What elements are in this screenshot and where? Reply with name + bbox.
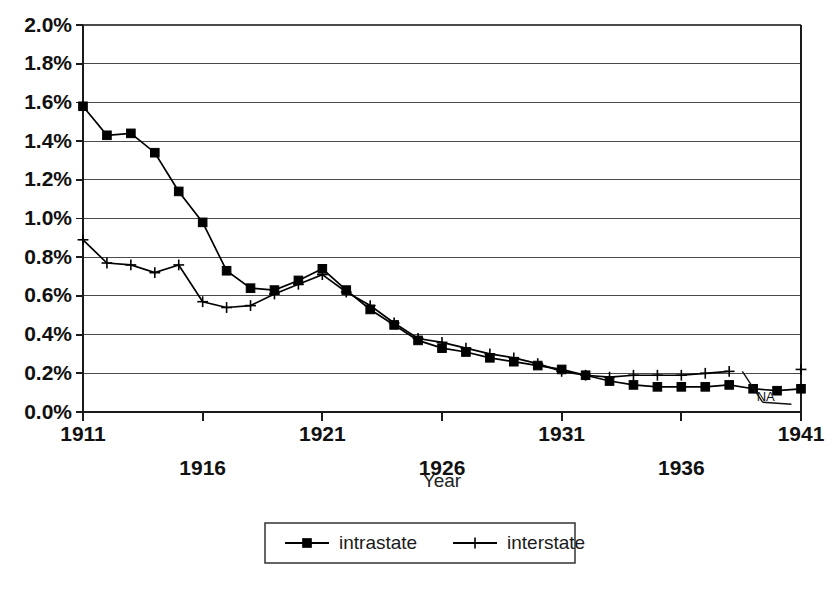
y-axis-tick-label: 1.4%	[24, 129, 72, 152]
data-point-marker-square	[246, 284, 255, 293]
y-axis-tick-label: 0.2%	[24, 361, 72, 384]
data-series-interstate	[78, 234, 807, 382]
data-point-marker-square	[127, 129, 136, 138]
na-annotation-label: NA	[757, 389, 775, 404]
data-point-marker-cross	[652, 370, 663, 381]
y-axis-tick-label: 0.0%	[24, 400, 72, 423]
data-point-marker-square	[701, 383, 710, 392]
data-point-marker-cross	[149, 267, 160, 278]
data-point-marker-cross	[125, 260, 136, 271]
data-point-marker-square	[222, 266, 231, 275]
data-point-marker-square	[174, 187, 183, 196]
chart-container: 0.0%0.2%0.4%0.6%0.8%1.0%1.2%1.4%1.6%1.8%…	[0, 0, 838, 597]
x-axis-tick-label: 1916	[179, 456, 226, 479]
x-axis-tick-label: 1921	[299, 422, 346, 445]
y-axis-tick-label: 2.0%	[24, 13, 72, 36]
data-point-marker-cross	[700, 368, 711, 379]
data-series-intrastate	[79, 102, 806, 395]
data-point-marker-cross	[676, 370, 687, 381]
data-series-layer	[78, 102, 807, 395]
data-point-marker-cross	[628, 370, 639, 381]
data-point-marker-cross	[724, 366, 735, 377]
data-point-marker-square	[629, 381, 638, 390]
series-polyline	[83, 240, 729, 377]
y-axis-tick-labels: 0.0%0.2%0.4%0.6%0.8%1.0%1.2%1.4%1.6%1.8%…	[24, 13, 72, 423]
legend-label: intrastate	[339, 532, 417, 553]
data-point-marker-square	[151, 148, 160, 157]
x-axis-tick-label: 1941	[778, 422, 825, 445]
y-axis-tick-label: 0.6%	[24, 283, 72, 306]
y-axis-tick-label: 1.8%	[24, 51, 72, 74]
y-axis-tick-label: 1.2%	[24, 167, 72, 190]
data-point-marker-cross	[173, 260, 184, 271]
y-axis-tick-label: 0.8%	[24, 245, 72, 268]
data-point-marker-square	[103, 131, 112, 140]
x-axis-tick-label: 1931	[538, 422, 585, 445]
y-axis-tick-label: 1.0%	[24, 206, 72, 229]
chart-legend: intrastateinterstate	[265, 523, 585, 563]
data-point-marker-square	[677, 383, 686, 392]
data-point-marker-cross	[245, 300, 256, 311]
x-axis-tick-label: 1936	[658, 456, 705, 479]
data-point-marker-square	[797, 384, 806, 393]
line-chart: 0.0%0.2%0.4%0.6%0.8%1.0%1.2%1.4%1.6%1.8%…	[0, 0, 838, 597]
x-axis-tick-label: 1911	[60, 422, 106, 445]
x-tick-marks-group	[83, 412, 801, 421]
x-axis-title: Year	[423, 470, 462, 491]
data-point-marker-cross	[221, 302, 232, 313]
gridlines-group	[83, 25, 801, 373]
data-point-marker-square	[725, 381, 734, 390]
data-point-marker-square	[198, 218, 207, 227]
data-point-marker-cross	[197, 296, 208, 307]
data-point-marker-square	[303, 539, 312, 548]
y-axis-tick-label: 1.6%	[24, 90, 72, 113]
y-axis-tick-label: 0.4%	[24, 322, 72, 345]
data-point-marker-square	[79, 102, 88, 111]
data-point-marker-square	[653, 383, 662, 392]
legend-label: interstate	[507, 532, 585, 553]
